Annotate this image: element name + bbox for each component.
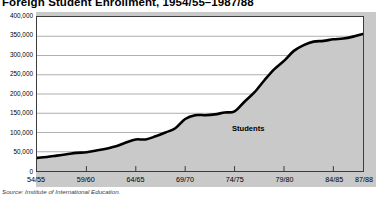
x-tick-label: 87/88 <box>355 176 373 183</box>
x-tick-label: 59/60 <box>77 176 95 183</box>
y-tick-label: 50,000 <box>13 149 33 155</box>
chart-title: Foreign Student Enrollment, 1954/55–1987… <box>2 0 254 8</box>
y-tick-label: 300,000 <box>10 52 33 58</box>
plot-area <box>36 16 364 172</box>
y-tick-label: 150,000 <box>10 110 33 116</box>
chart-svg <box>37 17 363 171</box>
source-note: Source: Institute of International Educa… <box>2 188 120 195</box>
x-tick-label: 79/80 <box>275 176 293 183</box>
x-tick-label: 64/65 <box>126 176 144 183</box>
x-tick-label: 54/55 <box>27 176 45 183</box>
y-tick-label: 350,000 <box>10 32 33 38</box>
y-tick-label: 250,000 <box>10 71 33 77</box>
x-tick-label: 69/70 <box>176 176 194 183</box>
series-annotation-students: Students <box>232 124 265 133</box>
x-axis-tick-labels: 54/5559/6064/6569/7074/7579/8084/8587/88 <box>0 176 376 188</box>
y-tick-label: 200,000 <box>10 91 33 97</box>
y-tick-label: 100,000 <box>10 130 33 136</box>
x-tick-label: 84/85 <box>325 176 343 183</box>
y-axis-tick-labels: 400,000350,000300,000250,000200,000150,0… <box>0 0 33 199</box>
x-tick-label: 74/75 <box>226 176 244 183</box>
y-tick-label: 400,000 <box>10 13 33 19</box>
chart-figure: Foreign Student Enrollment, 1954/55–1987… <box>0 0 376 199</box>
series-area-fill <box>37 34 363 171</box>
